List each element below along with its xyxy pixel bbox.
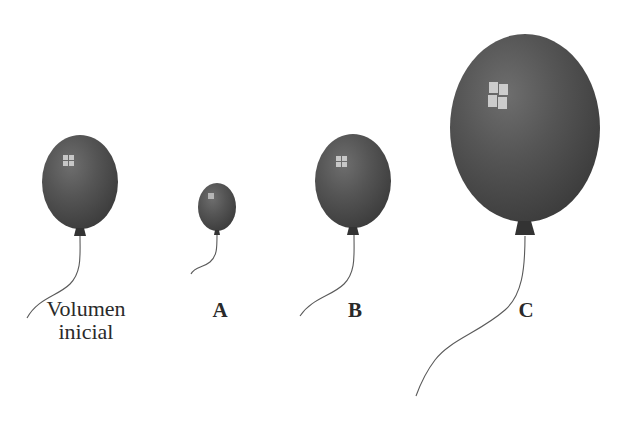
window-highlight-icon: [208, 193, 214, 199]
balloon-a: [191, 183, 236, 274]
label-a: A: [205, 300, 235, 321]
label-c: C: [511, 300, 541, 321]
diagram-canvas: Volumen inicial A B C: [0, 0, 625, 422]
balloon-knot: [74, 228, 86, 236]
balloon-knot: [515, 221, 535, 235]
balloon-body: [198, 183, 236, 231]
balloon-knot: [347, 227, 359, 235]
balloons-illustration: [0, 0, 625, 422]
balloon-c: [416, 34, 600, 396]
label-initial-line1: Volumen: [36, 298, 136, 320]
label-initial-volume: Volumen inicial: [36, 298, 136, 343]
label-b: B: [340, 300, 370, 321]
balloon-body: [315, 134, 391, 228]
string: [416, 236, 525, 396]
label-initial-line2: inicial: [36, 321, 136, 343]
balloon-knot: [214, 230, 220, 235]
balloon-initial: [27, 135, 118, 318]
balloon-body: [42, 135, 118, 229]
string: [191, 235, 217, 274]
balloon-body: [450, 34, 600, 222]
balloon-b: [300, 134, 391, 316]
